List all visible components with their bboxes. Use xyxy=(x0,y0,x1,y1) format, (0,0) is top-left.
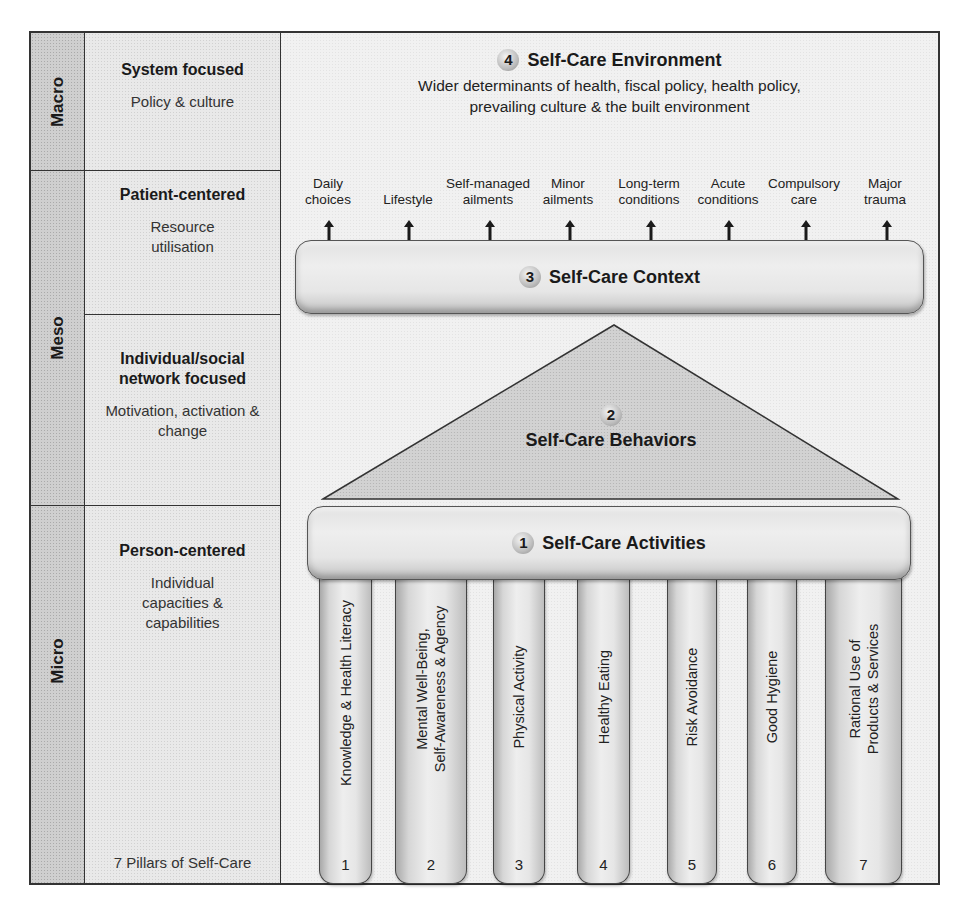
descriptor-patient-centered: Patient-centered Resource utilisation xyxy=(85,171,281,315)
pillar-5: Risk Avoidance 5 xyxy=(667,563,717,884)
context-item-self-managed-ailments: Self-managedailments xyxy=(446,176,530,208)
pillar-4: Healthy Eating 4 xyxy=(577,563,630,884)
self-care-environment: 4Self-Care Environment Wider determinant… xyxy=(281,49,938,117)
pillar-label: Knowledge & Health Literacy xyxy=(337,600,355,786)
pillar-label: Physical Activity xyxy=(510,645,528,748)
descriptor-title: Person-centered xyxy=(91,541,274,561)
level-meso: Meso xyxy=(31,171,85,506)
context-title: Self-Care Context xyxy=(549,267,700,288)
pillar-7: Rational Use ofProducts & Services 7 xyxy=(825,563,902,884)
number-badge-1: 1 xyxy=(512,532,534,554)
descriptor-subtitle: Individual capacities & capabilities xyxy=(123,573,243,633)
descriptor-person-centered: Person-centered Individual capacities & … xyxy=(85,506,281,883)
environment-description: Wider determinants of health, fiscal pol… xyxy=(281,75,938,117)
descriptor-individual-social: Individual/social network focused Motiva… xyxy=(85,315,281,506)
pillar-number: 2 xyxy=(396,856,466,873)
context-item-major-trauma: Majortrauma xyxy=(864,176,906,208)
pillars-caption: 7 Pillars of Self-Care xyxy=(85,854,280,871)
level-micro: Micro xyxy=(31,506,85,883)
pillar-number: 3 xyxy=(494,856,544,873)
pillar-label: Good Hygiene xyxy=(763,651,781,744)
pillar-1: Knowledge & Health Literacy 1 xyxy=(319,563,372,884)
level-label-meso: Meso xyxy=(48,316,68,359)
number-badge-4: 4 xyxy=(497,49,519,71)
descriptor-subtitle: Policy & culture xyxy=(91,92,274,112)
pillar-number: 5 xyxy=(668,856,716,873)
pillar-label: Mental Well-Being,Self-Awareness & Agenc… xyxy=(413,606,449,773)
number-badge-3: 3 xyxy=(519,266,541,288)
level-label-macro: Macro xyxy=(48,76,68,126)
environment-description-line1: Wider determinants of health, fiscal pol… xyxy=(281,75,938,96)
context-item-minor-ailments: Minorailments xyxy=(543,176,593,208)
descriptor-system-focused: System focused Policy & culture xyxy=(85,33,281,171)
context-item-lifestyle: Lifestyle xyxy=(383,192,433,208)
self-care-activities-bar: 1Self-Care Activities xyxy=(307,506,911,580)
arrow-up-icon xyxy=(484,220,496,240)
pillar-number: 6 xyxy=(748,856,796,873)
pillar-6: Good Hygiene 6 xyxy=(747,563,797,884)
activities-title: Self-Care Activities xyxy=(542,533,705,554)
pillar-label: Healthy Eating xyxy=(595,650,613,744)
behaviors-title: Self-Care Behaviors xyxy=(321,430,901,451)
arrow-up-icon xyxy=(323,220,335,240)
pillar-label: Rational Use ofProducts & Services xyxy=(846,624,882,755)
context-item-daily-choices: Dailychoices xyxy=(305,176,351,208)
descriptor-title: System focused xyxy=(91,60,274,80)
descriptor-title: Patient-centered xyxy=(91,185,274,205)
context-item-long-term-conditions: Long-termconditions xyxy=(618,176,680,208)
arrow-up-icon xyxy=(564,220,576,240)
pillar-number: 4 xyxy=(578,856,629,873)
arrow-up-icon xyxy=(881,220,893,240)
descriptor-subtitle: Resource utilisation xyxy=(128,217,238,257)
level-label-micro: Micro xyxy=(48,638,68,683)
number-badge-2: 2 xyxy=(600,404,622,426)
arrow-up-icon xyxy=(723,220,735,240)
arrow-up-icon xyxy=(800,220,812,240)
arrow-up-icon xyxy=(645,220,657,240)
pillar-label: Risk Avoidance xyxy=(683,648,701,747)
environment-title: Self-Care Environment xyxy=(527,50,721,70)
context-item-compulsory-care: Compulsorycare xyxy=(768,176,840,208)
descriptor-title: Individual/social network focused xyxy=(108,349,258,389)
pillar-number: 1 xyxy=(320,856,371,873)
pillar-number: 7 xyxy=(826,856,901,873)
descriptor-subtitle: Motivation, activation & change xyxy=(103,401,263,441)
self-care-framework-diagram: Macro Meso Micro System focused Policy &… xyxy=(29,31,940,885)
arrow-up-icon xyxy=(403,220,415,240)
self-care-behaviors-label: 2 Self-Care Behaviors xyxy=(321,404,901,451)
self-care-context-bar: 3Self-Care Context xyxy=(295,240,924,314)
environment-description-line2: prevailing culture & the built environme… xyxy=(281,96,938,117)
level-macro: Macro xyxy=(31,33,85,171)
pillar-3: Physical Activity 3 xyxy=(493,563,545,884)
pillar-2: Mental Well-Being,Self-Awareness & Agenc… xyxy=(395,563,467,884)
context-item-acute-conditions: Acuteconditions xyxy=(698,176,759,208)
